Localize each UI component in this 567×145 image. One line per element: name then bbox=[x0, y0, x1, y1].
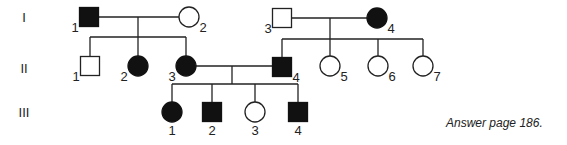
individual-number: 2 bbox=[199, 20, 206, 35]
individual-number: 2 bbox=[208, 123, 215, 138]
individual-number: 5 bbox=[340, 69, 347, 84]
unaffected-male-square-icon bbox=[81, 57, 100, 76]
individual-ii-5: 5 bbox=[320, 56, 348, 84]
pedigree-chart: I II III 123412345671234 Answer page 186… bbox=[0, 0, 567, 145]
individual-ii-2: 2 bbox=[120, 56, 148, 84]
individual-ii-1: 1 bbox=[72, 57, 99, 85]
unaffected-female-circle-icon bbox=[368, 56, 388, 76]
unaffected-female-circle-icon bbox=[179, 7, 199, 27]
affected-male-square-icon bbox=[80, 8, 99, 27]
generation-label-ii: II bbox=[20, 61, 27, 76]
individual-number: 2 bbox=[120, 69, 127, 84]
affected-female-circle-icon bbox=[128, 56, 148, 76]
individual-iii-3: 3 bbox=[245, 102, 265, 138]
affected-male-square-icon bbox=[289, 103, 308, 122]
individual-ii-6: 6 bbox=[368, 56, 396, 84]
individual-ii-4: 4 bbox=[273, 58, 300, 86]
individual-iii-4: 4 bbox=[289, 103, 308, 139]
unaffected-male-square-icon bbox=[273, 9, 292, 28]
affected-female-circle-icon bbox=[367, 8, 387, 28]
individual-number: 3 bbox=[168, 69, 175, 84]
individual-iii-1: 1 bbox=[162, 102, 182, 138]
affected-female-circle-icon bbox=[162, 102, 182, 122]
unaffected-female-circle-icon bbox=[413, 56, 433, 76]
generation-label-iii: III bbox=[19, 105, 30, 120]
affected-male-square-icon bbox=[273, 58, 292, 77]
individual-number: 1 bbox=[168, 123, 175, 138]
affected-male-square-icon bbox=[203, 103, 222, 122]
individual-ii-3: 3 bbox=[168, 56, 196, 84]
affected-female-circle-icon bbox=[176, 56, 196, 76]
individual-number: 3 bbox=[251, 123, 258, 138]
individual-number: 4 bbox=[294, 123, 301, 138]
unaffected-female-circle-icon bbox=[320, 56, 340, 76]
family-1-lines bbox=[90, 17, 186, 56]
family-2-lines bbox=[282, 18, 423, 57]
answer-note: Answer page 186. bbox=[445, 116, 543, 130]
individual-number: 4 bbox=[387, 21, 394, 36]
individual-number: 6 bbox=[388, 69, 395, 84]
individual-i-4: 4 bbox=[367, 8, 395, 36]
individual-number: 3 bbox=[264, 21, 271, 36]
individual-i-3: 3 bbox=[264, 9, 291, 37]
unaffected-female-circle-icon bbox=[245, 102, 265, 122]
individuals: 123412345671234 bbox=[71, 7, 440, 138]
individual-ii-7: 7 bbox=[413, 56, 441, 84]
individual-i-2: 2 bbox=[179, 7, 207, 35]
individual-number: 1 bbox=[71, 20, 78, 35]
generation-label-i: I bbox=[22, 10, 26, 25]
individual-iii-2: 2 bbox=[203, 103, 222, 139]
individual-i-1: 1 bbox=[71, 8, 98, 36]
individual-number: 7 bbox=[433, 69, 440, 84]
individual-number: 4 bbox=[292, 70, 299, 85]
individual-number: 1 bbox=[72, 69, 79, 84]
